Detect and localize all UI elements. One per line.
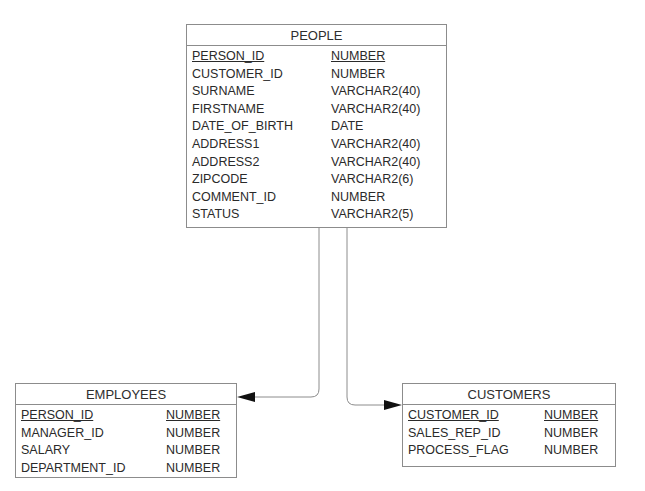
column-name: ZIPCODE xyxy=(192,171,248,189)
column-name: ADDRESS1 xyxy=(192,136,259,154)
column-name: FIRSTNAME xyxy=(192,101,264,119)
column-type: VARCHAR2(40) xyxy=(331,136,420,154)
column-row: STATUSVARCHAR2(5) xyxy=(187,206,446,224)
column-row: DEPARTMENT_IDNUMBER xyxy=(16,460,236,478)
relationship-people-customers xyxy=(347,228,390,405)
column-name: DATE_OF_BIRTH xyxy=(192,118,293,136)
arrowhead-icon xyxy=(384,400,402,410)
column-type: NUMBER xyxy=(331,48,385,66)
column-row: ADDRESS2VARCHAR2(40) xyxy=(187,154,446,172)
column-type: NUMBER xyxy=(544,442,598,460)
column-name: CUSTOMER_ID xyxy=(408,407,499,425)
column-name: PERSON_ID xyxy=(192,48,264,66)
column-row: ZIPCODEVARCHAR2(6) xyxy=(187,171,446,189)
column-name: SALARY xyxy=(21,442,70,460)
column-name: SALES_REP_ID xyxy=(408,425,500,443)
column-name: PROCESS_FLAG xyxy=(408,442,509,460)
column-type: NUMBER xyxy=(331,66,385,84)
column-type: VARCHAR2(40) xyxy=(331,154,420,172)
relationship-people-employees xyxy=(250,228,319,397)
entity-people[interactable]: PEOPLE PERSON_IDNUMBER CUSTOMER_IDNUMBER… xyxy=(186,24,447,228)
column-row: SURNAMEVARCHAR2(40) xyxy=(187,83,446,101)
column-name: STATUS xyxy=(192,206,239,224)
column-row: MANAGER_IDNUMBER xyxy=(16,425,236,443)
column-row: PROCESS_FLAGNUMBER xyxy=(403,442,615,460)
column-row: CUSTOMER_IDNUMBER xyxy=(187,66,446,84)
column-name: COMMENT_ID xyxy=(192,189,276,207)
column-type: NUMBER xyxy=(166,425,220,443)
column-row: ADDRESS1VARCHAR2(40) xyxy=(187,136,446,154)
entity-title: EMPLOYEES xyxy=(16,384,236,405)
entity-employees[interactable]: EMPLOYEES PERSON_IDNUMBER MANAGER_IDNUMB… xyxy=(15,383,237,478)
column-type: VARCHAR2(40) xyxy=(331,101,420,119)
arrowhead-icon xyxy=(237,392,255,402)
column-type: NUMBER xyxy=(544,425,598,443)
entity-title: PEOPLE xyxy=(187,25,446,46)
column-type: VARCHAR2(40) xyxy=(331,83,420,101)
column-row: FIRSTNAMEVARCHAR2(40) xyxy=(187,101,446,119)
column-type: NUMBER xyxy=(544,407,598,425)
column-type: VARCHAR2(5) xyxy=(331,206,413,224)
column-row: SALES_REP_IDNUMBER xyxy=(403,425,615,443)
column-row: SALARYNUMBER xyxy=(16,442,236,460)
entity-title: CUSTOMERS xyxy=(403,384,615,405)
column-row: PERSON_IDNUMBER xyxy=(16,407,236,425)
column-type: NUMBER xyxy=(331,189,385,207)
column-type: NUMBER xyxy=(166,407,220,425)
column-name: ADDRESS2 xyxy=(192,154,259,172)
column-type: DATE xyxy=(331,118,363,136)
column-row: COMMENT_IDNUMBER xyxy=(187,189,446,207)
column-row: DATE_OF_BIRTHDATE xyxy=(187,118,446,136)
column-name: PERSON_ID xyxy=(21,407,93,425)
column-type: NUMBER xyxy=(166,442,220,460)
column-type: VARCHAR2(6) xyxy=(331,171,413,189)
column-row: PERSON_IDNUMBER xyxy=(187,48,446,66)
column-name: SURNAME xyxy=(192,83,255,101)
column-type: NUMBER xyxy=(166,460,220,478)
column-row: CUSTOMER_IDNUMBER xyxy=(403,407,615,425)
entity-customers[interactable]: CUSTOMERS CUSTOMER_IDNUMBER SALES_REP_ID… xyxy=(402,383,616,467)
column-name: CUSTOMER_ID xyxy=(192,66,283,84)
column-name: MANAGER_ID xyxy=(21,425,104,443)
column-name: DEPARTMENT_ID xyxy=(21,460,125,478)
